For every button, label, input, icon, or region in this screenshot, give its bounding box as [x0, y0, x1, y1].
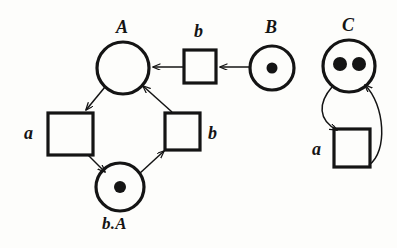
- place-C-circle: [323, 40, 375, 92]
- petri-net-figure: A b.A b a b B C a: [0, 0, 397, 248]
- place-B-token-1: [267, 63, 278, 74]
- place-B-label: B: [265, 18, 277, 36]
- place-C-token-2: [352, 57, 366, 71]
- transition-b-right-label: b: [208, 124, 217, 142]
- transition-b-top-label: b: [194, 22, 203, 40]
- arc-b-right-to-A: [143, 86, 172, 112]
- place-A-label: A: [116, 18, 128, 36]
- transition-a-left-label: a: [24, 124, 33, 142]
- place-C-label: C: [342, 16, 354, 34]
- arc-A-to-a-left: [86, 87, 105, 110]
- place-C-token-1: [333, 57, 347, 71]
- transition-b-right-box: [165, 113, 200, 150]
- place-bA-label: b.A: [102, 215, 127, 232]
- arc-a-left-to-bA: [88, 155, 105, 172]
- transition-a-left-box: [48, 113, 93, 155]
- place-A-circle: [97, 42, 149, 94]
- place-bA-token-1: [114, 181, 126, 193]
- transition-b-top-box: [184, 50, 216, 83]
- arc-C-to-a-right-curved: [322, 87, 337, 130]
- arc-bA-to-b-right: [139, 151, 164, 174]
- transition-a-right-box: [334, 129, 370, 167]
- transition-a-right-label: a: [312, 140, 321, 158]
